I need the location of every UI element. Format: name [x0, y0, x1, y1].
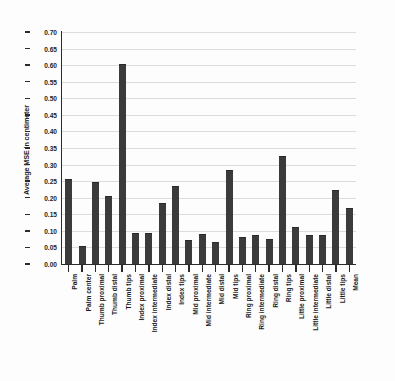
x-axis-tick-mark	[255, 265, 256, 272]
y-axis-tick-label: 0.50	[30, 95, 57, 102]
x-axis-tick-label: Ring proximal	[245, 274, 252, 318]
y-axis-tick-label: 0.00	[30, 261, 57, 268]
x-axis-tick-label: Index intermediate	[151, 274, 158, 332]
bar	[239, 237, 246, 265]
x-axis-tick-mark	[202, 265, 203, 272]
plot-inner	[62, 32, 356, 264]
x-axis-tick-label: Little tips	[339, 274, 346, 303]
bar	[105, 196, 112, 264]
x-axis-tick-mark	[282, 265, 283, 272]
x-axis-tick-mark	[162, 265, 163, 272]
x-axis-tick-label: Mean	[352, 274, 359, 291]
bar	[292, 227, 299, 264]
x-axis-tick-mark	[121, 265, 122, 272]
y-axis-tick-label: 0.15	[30, 211, 57, 218]
y-axis-tick-label: 0.60	[30, 62, 57, 69]
y-axis-tick-mark	[25, 131, 30, 132]
y-axis-tick-mark	[25, 81, 30, 82]
bar	[319, 235, 326, 265]
bar	[159, 203, 166, 264]
x-axis-tick-label: Mid proximal	[192, 274, 199, 315]
x-axis-tick-mark	[135, 265, 136, 272]
gridline	[62, 98, 356, 99]
gridline	[62, 165, 356, 166]
x-axis-tick-label: Mid intermediate	[205, 274, 212, 326]
x-axis-tick-mark	[188, 265, 189, 272]
x-axis-tick-label: Thumb proximal	[98, 274, 105, 325]
gridline	[62, 148, 356, 149]
gridline	[62, 32, 356, 33]
bar	[346, 208, 353, 264]
bar	[92, 182, 99, 264]
x-axis-tick-mark	[175, 265, 176, 272]
x-axis-tick-mark	[148, 265, 149, 272]
x-axis-tick-mark	[215, 265, 216, 272]
plot-area	[62, 32, 356, 264]
y-axis-tick-mark	[25, 180, 30, 181]
x-axis-tick-label: Mid distal	[218, 274, 225, 304]
x-axis-tick-label: Ring distal	[272, 274, 279, 308]
gridline	[62, 82, 356, 83]
bar	[119, 64, 126, 264]
y-axis-tick-label: 0.35	[30, 145, 57, 152]
gridline	[62, 65, 356, 66]
x-axis-tick-mark	[322, 265, 323, 272]
bar	[332, 190, 339, 264]
y-axis-tick-mark	[25, 214, 30, 215]
x-axis-tick-mark	[349, 265, 350, 272]
gridline	[62, 131, 356, 132]
x-axis-tick-mark	[81, 265, 82, 272]
y-axis-tick-label: 0.25	[30, 178, 57, 185]
x-axis-tick-mark	[268, 265, 269, 272]
gridline	[62, 49, 356, 50]
x-axis-tick-mark	[108, 265, 109, 272]
x-axis-tick-label: Index proximal	[138, 274, 145, 321]
x-axis-tick-label: Palm center	[85, 274, 92, 311]
y-axis-tick-mark	[25, 64, 30, 65]
x-axis-tick-label: Ring intermediate	[258, 274, 265, 330]
y-axis-tick-mark	[25, 147, 30, 148]
y-axis-tick-mark	[25, 197, 30, 198]
y-axis-tick-label: 0.05	[30, 244, 57, 251]
y-axis-tick-labels: 0.000.050.100.150.200.250.300.350.400.45…	[30, 32, 57, 264]
y-axis-tick-label: 0.10	[30, 227, 57, 234]
bar	[132, 233, 139, 264]
x-axis-tick-mark	[228, 265, 229, 272]
bar	[65, 179, 72, 265]
y-axis-tick-label: 0.65	[30, 45, 57, 52]
x-axis-tick-mark	[309, 265, 310, 272]
bar	[306, 235, 313, 265]
chart-figure: Average MSE in centimeter 0.000.050.100.…	[0, 0, 395, 381]
bar	[226, 170, 233, 264]
bar	[145, 233, 152, 264]
y-axis-tick-mark	[25, 164, 30, 165]
y-axis-tick-label: 0.70	[30, 29, 57, 36]
y-axis-tick-mark	[25, 263, 30, 264]
y-axis-tick-mark	[25, 48, 30, 49]
bar	[212, 242, 219, 264]
y-axis-tick-mark	[25, 114, 30, 115]
bar	[172, 186, 179, 264]
gridline	[62, 181, 356, 182]
bar	[199, 234, 206, 264]
y-axis-tick-label: 0.40	[30, 128, 57, 135]
y-axis-tick-label: 0.55	[30, 78, 57, 85]
bar	[279, 156, 286, 264]
x-axis-tick-label: Mid tips	[232, 274, 239, 299]
x-axis-tick-marks	[62, 265, 356, 273]
y-axis-tick-mark	[25, 247, 30, 248]
y-axis-tick-label: 0.45	[30, 111, 57, 118]
x-axis-tick-mark	[295, 265, 296, 272]
y-axis-tick-mark	[25, 31, 30, 32]
x-axis-tick-label: Little proximal	[298, 274, 305, 319]
x-axis-tick-label: Thumb distal	[111, 274, 118, 315]
x-axis-tick-mark	[335, 265, 336, 272]
bar	[185, 240, 192, 264]
x-axis-tick-label: Index distal	[165, 274, 172, 310]
x-axis-tick-mark	[95, 265, 96, 272]
gridline	[62, 115, 356, 116]
y-axis-tick-label: 0.30	[30, 161, 57, 168]
x-axis-tick-labels: PalmPalm centerThumb proximalThumb dista…	[62, 274, 356, 374]
x-axis-tick-label: Little intermediate	[312, 274, 319, 331]
bar	[252, 235, 259, 265]
